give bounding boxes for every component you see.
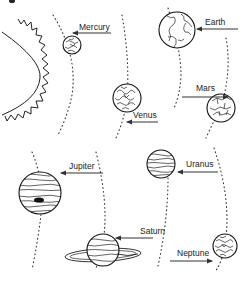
label-saturn: Saturn [140,226,165,236]
planet-saturn: Saturn [65,226,166,266]
label-jupiter: Jupiter [69,161,95,171]
great-red-spot [34,197,44,202]
planet-jupiter: Jupiter [18,161,103,214]
solar-system-diagram: Mercury Venus Earth Mars Jupiter [0,0,245,281]
planet-mars: Mars [182,83,235,122]
label-venus: Venus [133,110,157,120]
label-mars: Mars [196,83,215,93]
sun-illustration [2,19,49,121]
panel-label-fragment [9,0,15,3]
planet-uranus: Uranus [147,150,218,178]
label-mercury: Mercury [79,22,110,32]
label-earth: Earth [205,17,226,27]
sun-corona [5,19,49,121]
planet-venus: Venus [113,84,158,122]
label-uranus: Uranus [186,159,213,169]
planet-earth: Earth [159,12,238,48]
planet-mercury: Mercury [63,22,111,54]
label-neptune: Neptune [177,248,209,258]
planet-neptune: Neptune [170,234,237,261]
